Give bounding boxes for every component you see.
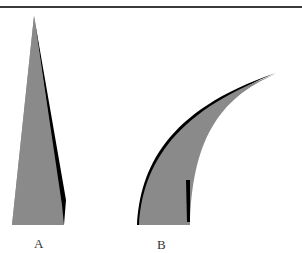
panel-b-shape bbox=[137, 73, 276, 225]
panel-a-shape bbox=[12, 16, 66, 225]
figure-canvas bbox=[0, 0, 302, 253]
panel-a-label: A bbox=[34, 236, 43, 252]
panel-b-label: B bbox=[157, 237, 166, 253]
